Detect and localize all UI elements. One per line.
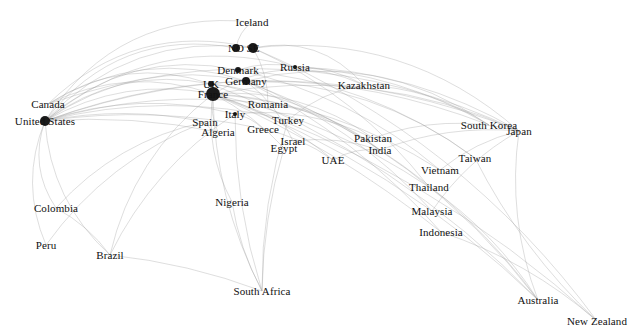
node-label[interactable]: Japan: [506, 126, 532, 137]
node-label[interactable]: Pakistan: [354, 133, 392, 144]
node-label[interactable]: Kazakhstan: [338, 80, 390, 91]
node-label[interactable]: Italy: [225, 109, 246, 120]
node-label[interactable]: Russia: [280, 62, 310, 73]
node-label[interactable]: United States: [15, 116, 75, 127]
edge-layer: [0, 0, 639, 336]
node-label[interactable]: Indonesia: [419, 227, 463, 238]
node-label[interactable]: Germany: [225, 76, 267, 87]
node-label[interactable]: France: [198, 89, 229, 100]
edge: [32, 121, 46, 245]
network-graph-canvas: IcelandNOSEDenmarkRussiaUKGermanyFranceK…: [0, 0, 639, 336]
edge: [45, 121, 110, 255]
node-label[interactable]: Romania: [248, 99, 288, 110]
node-label[interactable]: Egypt: [271, 143, 298, 154]
edge: [45, 45, 253, 121]
edge: [262, 148, 284, 291]
node-label[interactable]: New Zealand: [567, 316, 627, 327]
node-label[interactable]: Malaysia: [411, 206, 452, 217]
node-label[interactable]: Thailand: [409, 182, 449, 193]
edge: [39, 121, 56, 208]
node-label[interactable]: NO: [228, 43, 244, 54]
node-label[interactable]: South Africa: [233, 286, 290, 297]
node-label[interactable]: Taiwan: [459, 153, 492, 164]
node-label[interactable]: Canada: [31, 99, 65, 110]
node-label[interactable]: Vietnam: [421, 165, 459, 176]
node-label[interactable]: Colombia: [34, 203, 78, 214]
node-label[interactable]: Australia: [517, 295, 558, 306]
node-label[interactable]: Nigeria: [215, 197, 249, 208]
node-label[interactable]: Algeria: [201, 127, 235, 138]
node-label[interactable]: India: [368, 145, 391, 156]
node-label[interactable]: SE: [246, 43, 259, 54]
edge: [211, 84, 538, 300]
node-label[interactable]: Iceland: [235, 17, 268, 28]
node-label[interactable]: Brazil: [96, 250, 123, 261]
node-label[interactable]: Peru: [36, 240, 57, 251]
node-label[interactable]: UAE: [322, 155, 345, 166]
edge: [232, 202, 262, 291]
node-label[interactable]: Greece: [247, 124, 279, 135]
